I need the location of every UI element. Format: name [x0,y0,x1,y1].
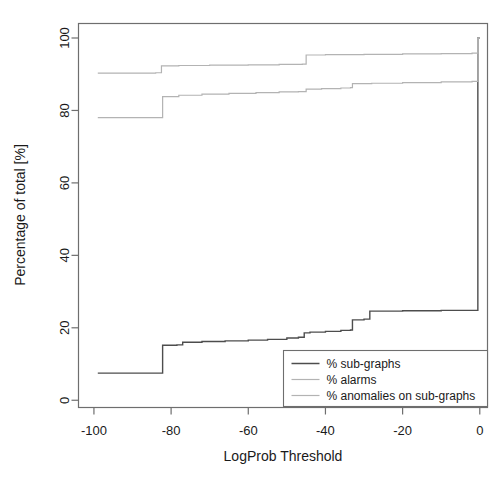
x-tick-label: -20 [393,423,412,438]
x-tick-label: -40 [316,423,335,438]
legend-label-2: % anomalies on sub-graphs [327,389,476,403]
x-axis-title: LogProb Threshold [224,448,343,464]
plot-frame [79,24,488,408]
y-tick-label: 20 [57,321,72,335]
chart-canvas: 020406080100 -100-80-60-40-200 % sub-gra… [0,0,502,479]
chart-figure: 020406080100 -100-80-60-40-200 % sub-gra… [0,0,502,479]
x-tick-label: -60 [239,423,258,438]
y-tick-label: 80 [57,103,72,117]
y-axis-title: Percentage of total [%] [12,144,28,286]
y-axis: 020406080100 [57,27,79,404]
y-tick-label: 40 [57,248,72,262]
legend-label-0: % sub-graphs [327,357,401,371]
legend-label-1: % alarms [327,373,377,387]
x-axis: -100-80-60-40-200 [81,408,483,439]
x-tick-label: -100 [81,423,107,438]
series-line-0 [98,38,480,373]
y-tick-label: 0 [57,397,72,404]
x-tick-label: 0 [476,423,483,438]
x-tick-label: -80 [162,423,181,438]
chart-legend: % sub-graphs% alarms% anomalies on sub-g… [284,351,488,407]
series-line-2 [98,38,480,73]
series-line-1 [98,38,480,118]
series-group [98,38,480,373]
y-tick-label: 100 [57,27,72,49]
y-tick-label: 60 [57,176,72,190]
